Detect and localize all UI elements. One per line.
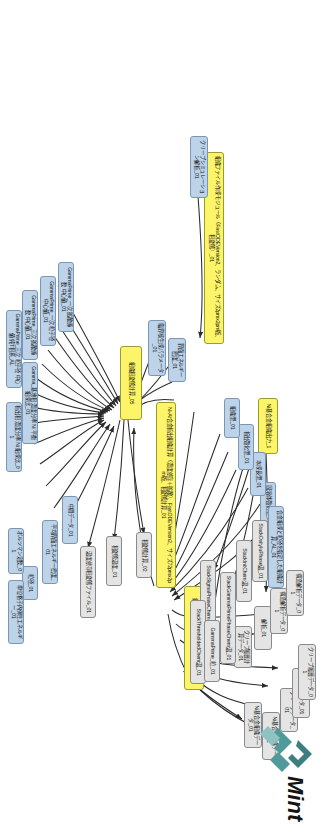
output-node-stack-init-chem[interactable]: StackInitChem温_01	[236, 540, 252, 602]
input-node-composition-grain-calc[interactable]: 合金組成と粒径を指定した組織計算_AL_01	[268, 506, 284, 588]
output-node-creep-history-calc[interactable]: クリープ履歴計算データ_01	[234, 626, 252, 668]
input-node-boltzmann-constant[interactable]: ボルツマン定数_01	[8, 528, 24, 574]
output-node-creep-history[interactable]: クリープ履歴データ_01	[298, 644, 316, 700]
input-node-structure-type[interactable]: 組織型_01	[224, 398, 240, 438]
output-node-gammaprime-grain[interactable]: GammaPrime_粒_01	[204, 620, 220, 682]
diagram-canvas: 組織ファイル作成モジュール（FastODEVersion2、ランダム、サイズ2p…	[0, 0, 324, 832]
mint-logo-text: Mint	[283, 776, 308, 823]
input-node-precip-ni-fraction[interactable]: 析出相 濃度分率 Ni 組成比_01	[6, 402, 22, 472]
input-node-gammaprime-3rd-diffusion[interactable]: GammaPrime_三次 拡散係数 中心値_01	[22, 290, 38, 360]
input-node-critical-nucleation-param[interactable]: 臨界核生成パラメータ_01	[148, 320, 166, 376]
process-node-ni-alloy-output[interactable]: Ni基合金組織出力_1	[258, 398, 278, 454]
input-node-gamma-matrix-ni-fraction[interactable]: Gamma_基地相 濃度分率 Ni 平衡 組成比_01	[22, 362, 38, 444]
input-node-gammaprime-1st-radius[interactable]: GammaPrime_一次 粒子径 中心値_01	[40, 276, 56, 346]
input-node-unit-cell-elastic-energy[interactable]: 単位格子内弾性エネルギー_01	[8, 580, 24, 644]
process-node-phase-transformation[interactable]: 組織相変態計算_05	[120, 346, 142, 420]
input-node-creep-simulation[interactable]: クリープシミュレーション解析_01	[190, 136, 208, 198]
input-node-gammaprime-3rd-radius[interactable]: GammaPrime_三次 粒子径 中心値 純T相系_AL	[6, 310, 22, 388]
mint-logo: Mint	[254, 724, 318, 828]
output-node-phase-transform-temp[interactable]: 相変態温度_01	[106, 536, 122, 586]
input-node-precipitation-type[interactable]: 析出強化型_01	[238, 424, 254, 470]
output-node-stack-oxity-phase[interactable]: StackOxityIuPhase温_01	[252, 520, 268, 582]
input-node-avg-interface-energy[interactable]: 平均界面エネルギー密度_01	[42, 520, 58, 584]
diagram-stage: 組織ファイル作成モジュール（FastODEVersion2、ランダム、サイズ2p…	[0, 0, 324, 832]
output-node-structure-data-2[interactable]: 構造解析データ_01	[286, 570, 304, 616]
output-node-phase-transform-calc[interactable]: 相変態計算_02	[136, 532, 152, 578]
input-node-gammaprime-1st-diffusion[interactable]: GammaPrime_一次 拡散係数 中心値_01	[58, 262, 74, 332]
input-node-grain-size[interactable]: 粒径_01	[22, 566, 38, 600]
output-node-temp-dependent-file[interactable]: 温度依存相変態ファイル_01	[80, 546, 96, 618]
process-node-nial-precipitation[interactable]: Ni-Al合金析出組織計算（濃度依存＋拡散）、FastODEVersion2、サ…	[156, 402, 176, 588]
input-node-intermediate-data[interactable]: 中間データ_01	[62, 496, 78, 544]
mint-chevron-mark-icon	[260, 726, 312, 772]
output-node-stack-gammaprime-phase-chem[interactable]: StackGammaPrimePhaseChem温_01	[220, 572, 236, 664]
input-node-interface-energy-density[interactable]: 界面エネルギー密度_01	[168, 338, 186, 382]
